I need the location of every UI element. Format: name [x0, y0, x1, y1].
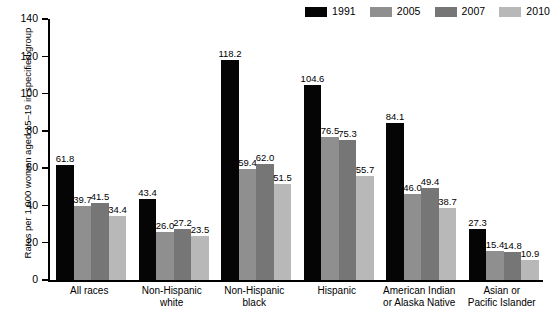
- bar-value-label: 27.3: [468, 218, 487, 228]
- y-tick-label-60: 60: [8, 161, 38, 173]
- bar: 39.7: [74, 206, 92, 280]
- bar: 26.0: [156, 232, 174, 280]
- bar-value-label: 10.9: [521, 249, 540, 259]
- x-axis-label-line: Non-Hispanic: [213, 285, 296, 297]
- bar-group: 104.676.575.355.7: [304, 19, 374, 280]
- bar-value-label: 15.4: [486, 240, 505, 250]
- legend-item-1991: 1991: [305, 6, 356, 17]
- x-axis-label-line: or Alaska Native: [378, 297, 461, 309]
- bar: 34.4: [109, 216, 127, 280]
- bar-value-label: 62.0: [256, 153, 275, 163]
- bar: 49.4: [421, 188, 439, 280]
- bar: 10.9: [521, 260, 539, 280]
- bar-value-label: 26.0: [156, 221, 175, 231]
- bar-value-label: 84.1: [386, 112, 405, 122]
- legend-item-2005: 2005: [370, 6, 421, 17]
- bar-value-label: 49.4: [421, 177, 440, 187]
- x-axis-label: Hispanic: [296, 285, 379, 297]
- bar: 43.4: [139, 199, 157, 280]
- legend-label-2005: 2005: [397, 6, 421, 17]
- legend-swatch-1991: [305, 7, 327, 17]
- bar: 61.8: [56, 165, 74, 280]
- bar: 15.4: [486, 251, 504, 280]
- bar: 27.2: [174, 229, 192, 280]
- legend-item-2010: 2010: [499, 6, 550, 17]
- bar-value-label: 43.4: [138, 188, 157, 198]
- bar-group: 84.146.049.438.7: [386, 19, 456, 280]
- bar: 76.5: [321, 137, 339, 280]
- bar: 84.1: [386, 123, 404, 280]
- x-axis-label: Non-Hispanicwhite: [131, 285, 214, 309]
- x-axis-label: American Indianor Alaska Native: [378, 285, 461, 309]
- bar-value-label: 14.8: [503, 241, 522, 251]
- bar-group: 43.426.027.223.5: [139, 19, 209, 280]
- bar-value-label: 38.7: [438, 197, 457, 207]
- bar: 38.7: [439, 208, 457, 280]
- bar: 62.0: [256, 164, 274, 280]
- y-tick-label-80: 80: [8, 124, 38, 136]
- legend-label-2010: 2010: [526, 6, 550, 17]
- x-axis-label-line: Non-Hispanic: [131, 285, 214, 297]
- x-axis-label-line: white: [131, 297, 214, 309]
- x-axis-label-line: Hispanic: [296, 285, 379, 297]
- bar: 55.7: [356, 176, 374, 280]
- bar-value-label: 23.5: [191, 225, 210, 235]
- bar: 27.3: [469, 229, 487, 280]
- x-axis-label-line: American Indian: [378, 285, 461, 297]
- bar: 118.2: [221, 60, 239, 280]
- bar-value-label: 41.5: [91, 192, 110, 202]
- legend-label-2007: 2007: [462, 6, 486, 17]
- bar-group: 118.259.462.051.5: [221, 19, 291, 280]
- bar: 75.3: [339, 140, 357, 280]
- x-axis-label-line: All races: [48, 285, 131, 297]
- bar-groups: 61.839.741.534.443.426.027.223.5118.259.…: [48, 19, 543, 280]
- bar-group: 27.315.414.810.9: [469, 19, 539, 280]
- legend-label-1991: 1991: [332, 6, 356, 17]
- bar-value-label: 34.4: [108, 205, 127, 215]
- bar: 23.5: [191, 236, 209, 280]
- legend-swatch-2010: [499, 7, 521, 17]
- x-axis-line: [48, 280, 543, 282]
- x-axis-label: Asian orPacific Islander: [461, 285, 544, 309]
- bar-value-label: 75.3: [338, 129, 357, 139]
- bar-chart: 1991200520072010 Rates per 1,000 women a…: [0, 0, 553, 317]
- bar-value-label: 104.6: [301, 74, 325, 84]
- bar: 41.5: [91, 203, 109, 280]
- x-axis-label: All races: [48, 285, 131, 297]
- bar-value-label: 39.7: [73, 195, 92, 205]
- chart-legend: 1991200520072010: [305, 6, 550, 17]
- bar: 104.6: [304, 85, 322, 280]
- bar-value-label: 59.4: [238, 158, 257, 168]
- bar: 51.5: [274, 184, 292, 280]
- x-axis-label-line: black: [213, 297, 296, 309]
- x-axis-label: Non-Hispanicblack: [213, 285, 296, 309]
- legend-item-2007: 2007: [435, 6, 486, 17]
- bar-value-label: 61.8: [56, 154, 75, 164]
- y-tick-label-120: 120: [8, 50, 38, 62]
- x-axis-label-line: Pacific Islander: [461, 297, 544, 309]
- x-axis-label-line: Asian or: [461, 285, 544, 297]
- y-tick-label-40: 40: [8, 199, 38, 211]
- legend-swatch-2007: [435, 7, 457, 17]
- bar-value-label: 118.2: [218, 49, 241, 59]
- bar-value-label: 27.2: [173, 218, 192, 228]
- y-tick-label-100: 100: [8, 87, 38, 99]
- bar-value-label: 46.0: [403, 183, 422, 193]
- bar: 46.0: [404, 194, 422, 280]
- y-tick-label-20: 20: [8, 236, 38, 248]
- legend-swatch-2005: [370, 7, 392, 17]
- y-tick-label-140: 140: [8, 12, 38, 24]
- bar: 59.4: [239, 169, 257, 280]
- bar-group: 61.839.741.534.4: [56, 19, 126, 280]
- bar: 14.8: [504, 252, 522, 280]
- y-tick-label-0: 0: [8, 273, 38, 285]
- x-axis-category-labels: All racesNon-HispanicwhiteNon-Hispanicbl…: [48, 285, 543, 317]
- bar-value-label: 51.5: [273, 173, 292, 183]
- plot-area: 020406080100120140 61.839.741.534.443.42…: [48, 19, 543, 280]
- bar-value-label: 55.7: [356, 165, 375, 175]
- bar-value-label: 76.5: [321, 126, 340, 136]
